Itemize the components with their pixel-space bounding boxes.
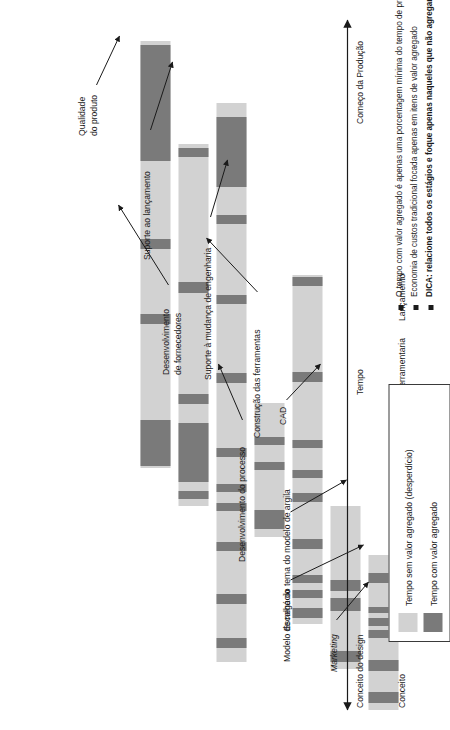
value-added-segment [292, 470, 322, 478]
value-added-segment [368, 692, 398, 703]
value-added-segment [140, 420, 170, 466]
note-text-3: DICA: relacione todos os estágios e foqu… [424, 0, 433, 297]
value-added-segment [368, 660, 398, 671]
value-added-segment [254, 462, 284, 470]
bullet-icon-3 [428, 305, 433, 310]
annotation-desenv-fornecedores-l1: Desenvolvimento [160, 309, 170, 375]
bullet-icon-2 [413, 305, 418, 310]
value-added-segment [292, 608, 322, 618]
annotation-marketing: Marketing [328, 634, 338, 672]
value-added-segment [292, 539, 322, 549]
value-added-segment [216, 594, 246, 604]
value-added-segment [178, 148, 208, 156]
legend-box [388, 384, 450, 642]
value-added-segment [254, 510, 284, 529]
legend-swatch-non-value-added [398, 613, 417, 632]
legend-label-value-added: Tempo com valor agregado [428, 502, 438, 606]
annotation-cad: CAD [277, 407, 287, 425]
annotation-qualidade-produto-l2: do produto [88, 95, 98, 136]
value-added-segment [330, 580, 360, 591]
annotation-desenv-processo: Desenvolvimento do processo [236, 447, 246, 562]
value-added-segment [292, 493, 322, 501]
axis-label-middle: Tempo [354, 369, 364, 395]
value-added-segment [178, 423, 208, 482]
value-added-segment [216, 638, 246, 648]
arrow-qualidade-produto [96, 36, 119, 85]
value-added-segment [216, 215, 246, 225]
annotation-construcao-ferramentas: Construção das ferramentas [251, 330, 261, 438]
axis-label-left: Conceito do design [354, 634, 364, 708]
annotation-escolha-tema: Escolha do tema do modelo de argila [281, 489, 291, 631]
value-added-segment [292, 440, 322, 448]
value-added-segment [216, 295, 246, 305]
axis-label-right: Começo da Produção [354, 41, 364, 124]
annotation-suporte-lancamento: Suporte ao lançamento [141, 171, 151, 260]
annotation-qualidade-produto-l1: Qualidade [76, 97, 86, 136]
stage-label-conceito: Conceito [396, 674, 406, 708]
note-text-2: Economia de custos tradicional focada ap… [409, 26, 418, 297]
value-added-segment [330, 598, 360, 610]
legend-label-non-value-added: Tempo sem valor agregado (desperdício) [403, 449, 413, 606]
value-added-segment [292, 277, 322, 287]
bar-projeto-com-cad [292, 275, 322, 623]
value-added-segment [292, 372, 322, 382]
value-added-segment [292, 590, 322, 598]
value-added-segment [254, 437, 284, 445]
value-added-segment [216, 117, 246, 187]
note-text-1: O tempo com valor agregado é apenas uma … [394, 0, 403, 297]
value-added-segment [292, 575, 322, 583]
bullet-icon-1 [398, 305, 403, 310]
annotation-suporte-mudanca: Suporte à mudança de engenharia [202, 248, 212, 380]
value-added-segment [140, 45, 170, 161]
bar-engenharia-de-produ-o [216, 103, 246, 662]
legend-swatch-value-added [423, 613, 442, 632]
value-added-segment [178, 394, 208, 404]
value-added-segment [178, 491, 208, 499]
value-added-segment [216, 373, 246, 383]
annotation-desenv-fornecedores-l2: de fornecedores [172, 313, 182, 375]
